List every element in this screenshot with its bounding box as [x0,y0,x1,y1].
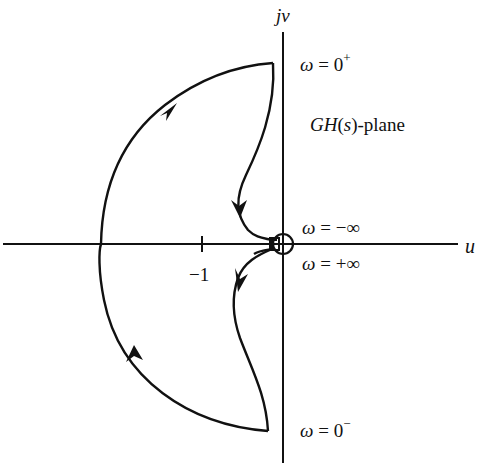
tick-label-minus-one: −1 [189,264,209,285]
imag-axis-label: jv [273,5,290,26]
label-omega-minus-inf: ω = −∞ [302,217,360,238]
nyquist-upper-branch [238,63,273,240]
label-omega-plus-inf: ω = +∞ [302,253,360,274]
nyquist-diagram: jv u −1 ω = 0+ GH(s)-plane ω = −∞ ω = +∞… [0,0,488,475]
plane-label: GH(s)-plane [310,114,405,136]
arrow-lower-arc [126,345,143,362]
real-axis-label: u [465,235,475,257]
nyquist-large-arc [99,63,273,431]
label-omega-zero-plus: ω = 0+ [300,50,350,75]
nyquist-lower-branch [234,249,272,431]
label-omega-zero-minus: ω = 0− [300,416,350,441]
